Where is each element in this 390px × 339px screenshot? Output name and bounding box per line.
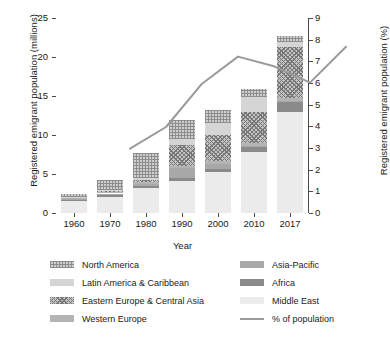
- legend-swatch-we-icon: [50, 315, 74, 322]
- y-axis-left-tick-label: 0: [14, 208, 48, 218]
- legend-item[interactable]: Asia-Pacific: [240, 258, 390, 273]
- x-axis-tick-label: 1960: [54, 219, 94, 229]
- legend-item[interactable]: North America: [50, 258, 240, 273]
- percent-of-population-line: [112, 36, 364, 231]
- plot-area: [56, 18, 308, 213]
- legend-item[interactable]: Latin America & Caribbean: [50, 276, 240, 291]
- legend-swatch-eeca-icon: [50, 297, 74, 304]
- bar-segment-af[interactable]: [61, 200, 87, 202]
- legend-swatch-lac-icon: [50, 279, 74, 286]
- legend-swatch-ap-icon: [240, 261, 264, 268]
- legend-swatch-af-icon: [240, 279, 264, 286]
- x-axis-tick: [74, 213, 75, 217]
- x-axis-title: Year: [56, 240, 309, 251]
- y-axis-right-tick: [309, 18, 313, 19]
- legend-swatch-line-icon: [240, 315, 264, 322]
- legend-item-label: Asia-Pacific: [272, 260, 319, 270]
- legend-item-label: Western Europe: [82, 314, 147, 324]
- legend-item[interactable]: Africa: [240, 276, 390, 291]
- legend-item-label: Latin America & Caribbean: [82, 278, 189, 288]
- chart-legend: North AmericaLatin America & CaribbeanEa…: [50, 258, 380, 332]
- legend-item[interactable]: Middle East: [240, 294, 390, 309]
- bar-segment-me[interactable]: [61, 201, 87, 213]
- bar-segment-lac[interactable]: [61, 197, 87, 198]
- legend-item[interactable]: % of population: [240, 312, 390, 327]
- y-axis-left-title: Registered emigrant population (millions…: [28, 0, 39, 206]
- legend-item-label: North America: [82, 260, 139, 270]
- legend-swatch-me-icon: [240, 297, 264, 304]
- legend-item-label: Africa: [272, 278, 295, 288]
- legend-item[interactable]: Western Europe: [50, 312, 240, 327]
- legend-swatch-na-icon: [50, 261, 74, 268]
- y-axis-left-tick: [52, 213, 56, 214]
- legend-item[interactable]: Eastern Europe & Central Asia: [50, 294, 240, 309]
- y-axis-right-tick-label: 9: [315, 13, 333, 23]
- legend-item-label: Middle East: [272, 296, 319, 306]
- bar-segment-na[interactable]: [61, 194, 87, 197]
- legend-item-label: % of population: [272, 314, 334, 324]
- bar-stack[interactable]: [61, 18, 87, 213]
- x-axis-tick: [110, 213, 111, 217]
- y-axis-right-title: Registered emigrant population (%): [378, 0, 389, 206]
- legend-item-label: Eastern Europe & Central Asia: [82, 296, 204, 306]
